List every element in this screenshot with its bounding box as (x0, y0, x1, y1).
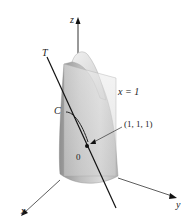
plane-label: x = 1 (118, 87, 139, 97)
curve-label: C (54, 106, 61, 116)
plane-x-equals-1 (64, 64, 116, 176)
figure-graphic (0, 0, 188, 221)
z-axis-label: z (70, 15, 74, 25)
point-1-1-1 (85, 144, 89, 148)
tangent-label: T (42, 48, 48, 58)
origin-label: 0 (76, 153, 81, 162)
x-axis (21, 180, 60, 216)
3d-figure: z T x = 1 C (1, 1, 1) 0 x y (0, 0, 188, 221)
y-axis-label: y (176, 200, 180, 210)
y-axis (118, 178, 177, 199)
z-axis (76, 17, 81, 58)
x-axis-label: x (21, 206, 25, 216)
point-label: (1, 1, 1) (124, 120, 153, 129)
